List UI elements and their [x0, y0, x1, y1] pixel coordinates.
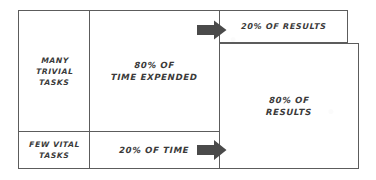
- cell-few-vital-tasks: FEW VITAL TASKS: [18, 131, 90, 169]
- cell-twenty-of-time-label: 20% OF TIME: [119, 144, 190, 156]
- cell-eighty-of-results-label: 80% OF RESULTS: [265, 94, 312, 119]
- arrow-right-icon-bottom: [197, 139, 227, 161]
- cell-few-vital-tasks-label: FEW VITAL TASKS: [29, 139, 81, 161]
- cell-twenty-of-results: 20% OF RESULTS: [219, 10, 348, 43]
- pareto-diagram: MANY TRIVIAL TASKS 80% OF TIME EXPENDED …: [0, 0, 376, 180]
- cell-many-trivial-tasks-label: MANY TRIVIAL TASKS: [35, 55, 74, 88]
- cell-time-expended-label: 80% OF TIME EXPENDED: [111, 59, 199, 84]
- arrow-right-icon-top: [197, 20, 227, 40]
- arrow-right-icon-top-svg: [197, 20, 227, 40]
- arrow-right-icon-bottom-svg: [197, 139, 227, 161]
- cell-many-trivial-tasks: MANY TRIVIAL TASKS: [18, 10, 90, 132]
- cell-eighty-of-results: 80% OF RESULTS: [219, 43, 359, 169]
- cell-twenty-of-results-label: 20% OF RESULTS: [240, 21, 326, 33]
